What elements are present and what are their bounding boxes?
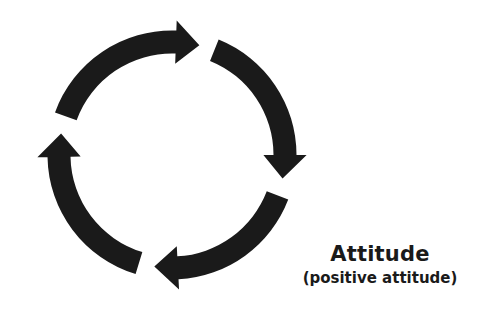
caption: Attitude (positive attitude) [290, 242, 470, 288]
arrow-right-icon [210, 40, 307, 179]
arrow-top-icon [55, 20, 199, 120]
arrow-bottom-icon [154, 191, 288, 289]
caption-subtitle: (positive attitude) [290, 268, 470, 288]
arrow-left-icon [37, 133, 142, 274]
caption-title: Attitude [290, 242, 470, 266]
